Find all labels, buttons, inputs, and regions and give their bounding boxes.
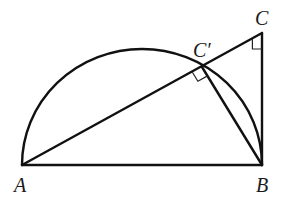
label-a: A xyxy=(12,174,27,196)
right-angle-mark-c xyxy=(252,38,262,49)
segment-ac xyxy=(22,33,262,165)
geometry-diagram: C C′ A B xyxy=(0,0,285,197)
label-b: B xyxy=(256,174,268,196)
label-c: C xyxy=(255,7,269,29)
label-cprime: C′ xyxy=(193,39,211,61)
segment-bcprime xyxy=(202,67,262,165)
